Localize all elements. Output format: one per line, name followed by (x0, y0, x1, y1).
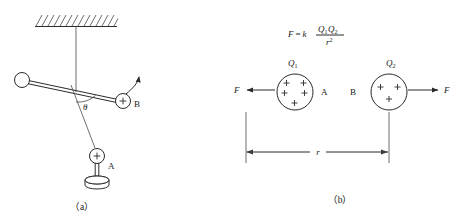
label-ball-b: B (134, 99, 140, 109)
label-q1: Q1 (288, 58, 298, 69)
panel-a-group: B θ A （a） (15, 15, 141, 212)
svg-text:F=k: F=k (287, 29, 308, 39)
charge-a-stand (85, 163, 109, 189)
label-charge-a: A (108, 161, 115, 171)
label-force-right: F (443, 85, 450, 95)
label-force-left: F (233, 85, 240, 95)
counterweight-ball (15, 73, 30, 88)
label-q2: Q2 (386, 58, 396, 69)
charge-sphere-q1 (277, 74, 313, 110)
distance-dimension: r (246, 112, 389, 163)
svg-text:Q1Q2: Q1Q2 (318, 24, 338, 35)
formula-r-exp: 2 (330, 37, 333, 43)
label-charge-left-name: A (321, 87, 328, 97)
label-charge-right-name: B (350, 87, 356, 97)
figure-canvas: B θ A （a） (0, 0, 466, 224)
caption-panel-a: （a） (70, 201, 94, 212)
pendulum-rod (26, 80, 118, 103)
label-distance-r: r (316, 147, 320, 157)
panel-b-group: F=k Q1Q2 r2 Q1 (233, 24, 450, 205)
physics-figure: B θ A （a） (0, 0, 466, 224)
formula-q2-sub: 2 (335, 29, 338, 35)
charge-sphere-q2 (371, 74, 407, 110)
rotation-arrow-icon (126, 77, 139, 94)
label-angle-theta: θ (83, 102, 88, 112)
ceiling-support-icon (35, 15, 118, 27)
svg-text:r2: r2 (326, 37, 333, 47)
formula-lhs: F (287, 29, 294, 39)
formula-equals: = (296, 29, 301, 39)
charged-sphere-a (90, 149, 105, 164)
formula-constant: k (303, 29, 308, 39)
angle-reference-line (71, 85, 95, 148)
caption-panel-b: （b） (328, 194, 353, 205)
charged-sphere-b (116, 94, 131, 109)
coulomb-formula: F=k Q1Q2 r2 (287, 24, 344, 47)
